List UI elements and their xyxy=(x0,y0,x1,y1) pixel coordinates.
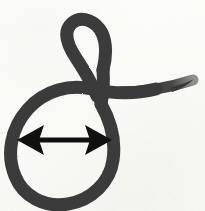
arrow-shaft xyxy=(36,138,94,143)
width-dimension-arrow xyxy=(17,125,112,155)
figure-root: Handwritten loop glyph with width annota… xyxy=(0,0,205,211)
annotation-layer xyxy=(0,0,205,211)
